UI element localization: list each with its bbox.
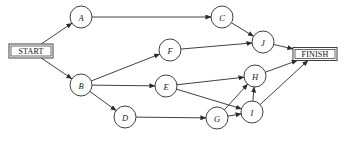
node-label-d: D <box>121 113 129 123</box>
node-layer: ABCDEFGHIJSTARTFINISH <box>9 6 337 129</box>
node-i[interactable]: I <box>241 101 263 123</box>
terminal-label-start: START <box>18 47 43 56</box>
terminal-label-finish: FINISH <box>302 50 329 59</box>
edge-c-to-j <box>231 23 253 37</box>
edge-b-to-f <box>91 54 160 81</box>
edge-e-to-i <box>177 89 242 109</box>
edge-b-to-e <box>92 85 155 86</box>
edge-h-to-finish <box>265 61 297 73</box>
edge-d-to-g <box>136 117 206 118</box>
node-h[interactable]: H <box>244 65 266 87</box>
node-label-b: B <box>78 81 83 91</box>
node-f[interactable]: F <box>159 39 181 61</box>
terminal-start[interactable]: START <box>9 44 53 58</box>
edge-g-to-i <box>228 114 241 116</box>
node-j[interactable]: J <box>252 31 274 53</box>
edge-i-to-h <box>253 87 254 101</box>
node-g[interactable]: G <box>206 107 228 129</box>
node-label-c: C <box>219 13 225 23</box>
edge-b-to-d <box>90 91 116 110</box>
node-label-h: H <box>251 72 259 82</box>
node-c[interactable]: C <box>211 6 233 28</box>
edge-j-to-finish <box>274 44 293 48</box>
node-a[interactable]: A <box>70 6 92 28</box>
node-label-a: A <box>77 13 84 23</box>
node-d[interactable]: D <box>114 106 136 128</box>
node-label-f: F <box>166 46 173 56</box>
edge-f-to-j <box>181 43 252 49</box>
node-b[interactable]: B <box>70 74 92 96</box>
edge-i-to-finish <box>260 61 308 105</box>
network-diagram: ABCDEFGHIJSTARTFINISH <box>0 0 344 144</box>
edge-e-to-h <box>177 77 244 85</box>
node-label-e: E <box>162 82 169 92</box>
node-e[interactable]: E <box>155 75 177 97</box>
node-label-g: G <box>214 114 220 124</box>
edge-start-to-b <box>41 58 72 79</box>
graph-canvas: ABCDEFGHIJSTARTFINISH <box>0 0 344 144</box>
terminal-finish[interactable]: FINISH <box>293 48 337 61</box>
edge-start-to-a <box>41 23 72 44</box>
